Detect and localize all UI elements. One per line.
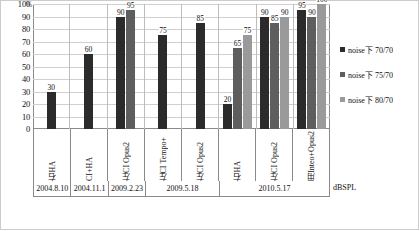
bar-group: 85 <box>182 4 219 129</box>
bar-value-label: 100 <box>316 0 328 4</box>
bar-value-label: 90 <box>116 8 125 16</box>
bar-slot: 30 <box>47 4 56 129</box>
x-category-cell: CI+HA <box>71 129 108 181</box>
bar-slot: 75 <box>243 4 252 129</box>
x-category-label: 左CI Tempo+ <box>159 136 168 181</box>
x-category-cell: 右HA <box>219 129 256 181</box>
legend-swatch-icon <box>340 47 345 52</box>
bar[interactable]: 30 <box>47 92 56 130</box>
bar[interactable]: 75 <box>243 35 252 129</box>
x-category-label: 右HA <box>48 160 57 181</box>
bar[interactable]: 100 <box>317 4 326 129</box>
x-category-cell: 左CI Opus2 <box>182 129 219 181</box>
x-category-label: 左CI Opus2 <box>196 141 205 181</box>
bar-value-label: 75 <box>159 27 168 35</box>
bar-slot: 100 <box>317 4 326 129</box>
bar-slot: 20 <box>223 4 232 129</box>
y-axis-tick: 0 <box>26 125 30 134</box>
bar-group: 206575 <box>219 4 256 129</box>
x-category-label: 用Inteo+Opus2 <box>307 130 316 181</box>
y-axis-tick: 80 <box>22 25 30 34</box>
bar-value-label: 90 <box>260 8 269 16</box>
legend: noise下 70/70noise下 75/70noise下 80/70 <box>340 44 418 105</box>
y-axis-tick: 100 <box>18 0 30 8</box>
bar-value-label: 90 <box>280 8 289 16</box>
bar-groups: 3060909575852065759085909590100 <box>33 4 330 129</box>
bar[interactable]: 90 <box>116 17 125 130</box>
bar-slot: 95 <box>126 4 135 129</box>
legend-label: noise下 80/70 <box>348 94 393 105</box>
y-axis-tick: 70 <box>22 37 30 46</box>
x-category-cell: 左CI Opus2 <box>108 129 145 181</box>
bar-group: 60 <box>70 4 107 129</box>
x-axis-date-row: 2004.8.102004.11.12009.2.232009.5.182010… <box>33 181 330 197</box>
bar[interactable]: 75 <box>158 35 167 129</box>
bar-value-label: 75 <box>243 27 252 35</box>
date-cell: 2004.8.10 <box>34 181 71 196</box>
bar-slot: 85 <box>196 4 205 129</box>
legend-item[interactable]: noise下 75/70 <box>340 69 418 80</box>
bar[interactable]: 90 <box>307 17 316 130</box>
bar-slot: 95 <box>297 4 306 129</box>
bar[interactable]: 85 <box>270 23 279 129</box>
bar[interactable]: 85 <box>196 23 205 129</box>
bar-slot: 75 <box>158 4 167 129</box>
y-axis-tick: 50 <box>22 62 30 71</box>
bar-slot: 90 <box>260 4 269 129</box>
bar-slot: 90 <box>307 4 316 129</box>
bar-value-label: 65 <box>233 39 242 47</box>
y-axis-tick: 30 <box>22 87 30 96</box>
bar-slot: 65 <box>233 4 242 129</box>
x-category-cell: 左CI Tempo+ <box>145 129 182 181</box>
bar-group: 30 <box>33 4 70 129</box>
bar-group: 9590100 <box>294 4 330 129</box>
x-category-label: 左CI Opus2 <box>122 141 131 181</box>
plot-area: 3060909575852065759085909590100 <box>33 4 330 129</box>
date-cell: 2004.11.1 <box>71 181 108 196</box>
bar[interactable]: 95 <box>297 10 306 129</box>
bar[interactable]: 95 <box>126 10 135 129</box>
axis-unit-caption: dBSPL <box>333 183 356 192</box>
bar-group: 9095 <box>108 4 145 129</box>
legend-label: noise下 75/70 <box>348 69 393 80</box>
legend-item[interactable]: noise下 70/70 <box>340 44 418 55</box>
date-cell: 2009.5.18 <box>146 181 220 196</box>
y-axis-tick: 20 <box>22 100 30 109</box>
bar-group: 908590 <box>257 4 294 129</box>
bar-value-label: 85 <box>270 14 279 22</box>
bar-slot: 90 <box>116 4 125 129</box>
x-category-cell: 左CI Opus2 <box>256 129 293 181</box>
date-cell: 2010.5.17 <box>220 181 330 196</box>
bar-group: 75 <box>145 4 182 129</box>
x-category-label: 左CI Opus2 <box>270 141 279 181</box>
legend-label: noise下 70/70 <box>348 44 393 55</box>
bar[interactable]: 90 <box>280 17 289 130</box>
bar[interactable]: 60 <box>84 54 93 129</box>
bar-slot: 90 <box>280 4 289 129</box>
x-category-cell: 右HA <box>34 129 71 181</box>
y-axis-tick: 10 <box>22 112 30 121</box>
bar-value-label: 95 <box>126 2 135 10</box>
y-axis-tick: 40 <box>22 75 30 84</box>
date-cell: 2009.2.23 <box>109 181 146 196</box>
legend-item[interactable]: noise下 80/70 <box>340 94 418 105</box>
bar[interactable]: 20 <box>223 104 232 129</box>
bar-value-label: 90 <box>308 8 317 16</box>
bar-value-label: 85 <box>196 14 205 22</box>
bar-value-label: 95 <box>298 2 307 10</box>
bar[interactable]: 65 <box>233 48 242 129</box>
y-axis: % 0102030405060708090100 <box>0 4 33 129</box>
legend-swatch-icon <box>340 72 345 77</box>
y-axis-tick: 90 <box>22 12 30 21</box>
chart-figure: % 0102030405060708090100 306090957585206… <box>0 0 420 231</box>
x-category-label: CI+HA <box>85 156 94 181</box>
x-axis-category-labels: 右HACI+HA左CI Opus2左CI Tempo+左CI Opus2右HA左… <box>33 129 330 181</box>
bar-slot: 85 <box>270 4 279 129</box>
bar-value-label: 60 <box>84 46 93 54</box>
bar-value-label: 20 <box>223 96 232 104</box>
legend-swatch-icon <box>340 97 345 102</box>
y-axis-tick: 60 <box>22 50 30 59</box>
bar[interactable]: 90 <box>260 17 269 130</box>
bar-slot: 60 <box>84 4 93 129</box>
x-category-label: 右HA <box>233 160 242 181</box>
